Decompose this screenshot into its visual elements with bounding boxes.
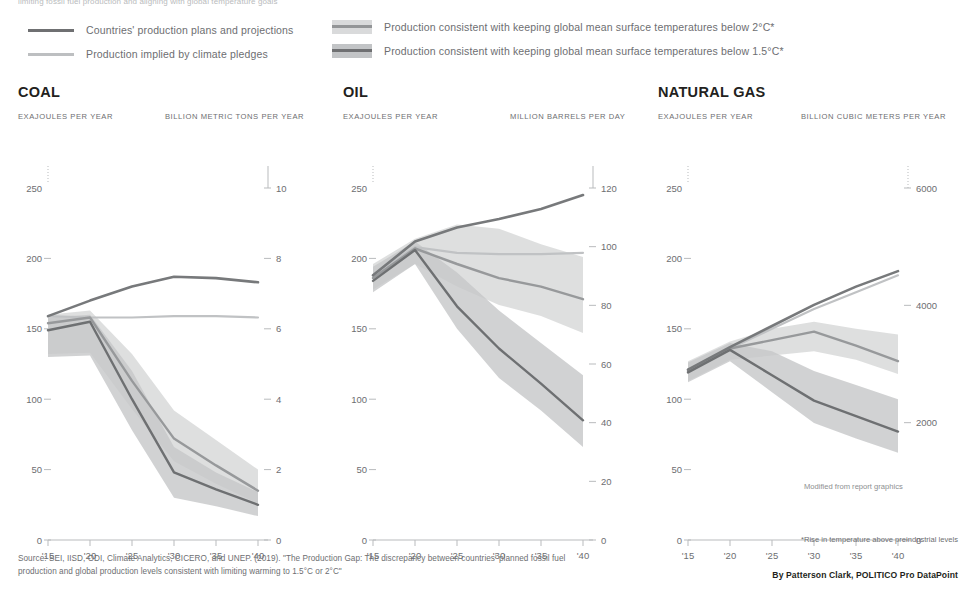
svg-text:4000: 4000 [916, 300, 937, 311]
y-axis-label-gas-left: EXAJOULES PER YEAR [658, 112, 753, 121]
legend-band-swatch-2c [332, 20, 372, 34]
modified-note: Modified from report graphics [804, 482, 903, 491]
legend-item-pledges: Production implied by climate pledges [28, 48, 268, 60]
svg-text:'30: '30 [808, 550, 820, 561]
svg-text:'15: '15 [682, 550, 694, 561]
svg-text:0: 0 [677, 535, 682, 546]
y-axis-label-gas-right: BILLION CUBIC METERS PER YEAR [801, 112, 946, 121]
svg-text:'40: '40 [892, 550, 904, 561]
svg-text:200: 200 [666, 253, 682, 264]
chart-svg-coal: 0501001502002500246810'15'20'25'30'35'40 [0, 130, 325, 550]
svg-text:2000: 2000 [916, 417, 937, 428]
svg-text:2: 2 [276, 464, 281, 475]
svg-text:60: 60 [601, 359, 612, 370]
svg-text:80: 80 [601, 300, 612, 311]
legend-item-2c: Production consistent with keeping globa… [332, 20, 775, 34]
legend-line-swatch-pledges [28, 53, 74, 56]
svg-text:120: 120 [601, 183, 617, 194]
legend-line-swatch-plans [28, 29, 74, 32]
svg-text:6000: 6000 [916, 183, 937, 194]
panel-title-oil: OIL [343, 84, 368, 100]
svg-text:40: 40 [601, 417, 612, 428]
legend-label-2c: Production consistent with keeping globa… [384, 21, 775, 33]
byline: By Patterson Clark, POLITICO Pro DataPoi… [772, 570, 958, 580]
svg-text:100: 100 [351, 394, 367, 405]
source-credit: Source: SEI, IISD, ODI, Climate Analytic… [18, 552, 578, 578]
svg-text:6: 6 [276, 323, 281, 334]
svg-text:0: 0 [37, 535, 42, 546]
panel-title-natural-gas: NATURAL GAS [658, 84, 765, 100]
svg-text:20: 20 [601, 476, 612, 487]
y-axis-label-oil-left: EXAJOULES PER YEAR [343, 112, 438, 121]
y-axis-label-oil-right: MILLION BARRELS PER DAY [510, 112, 625, 121]
y-axis-label-coal-right: BILLION METRIC TONS PER YEAR [165, 112, 304, 121]
legend-band-swatch-15c [332, 44, 372, 58]
panel-oil: OIL EXAJOULES PER YEAR MILLION BARRELS P… [325, 84, 650, 534]
panel-title-coal: COAL [18, 84, 60, 100]
legend-label-15c: Production consistent with keeping globa… [384, 45, 784, 57]
svg-text:100: 100 [666, 394, 682, 405]
infographic-canvas: limiting fossil fuel production and alig… [0, 0, 974, 594]
legend-label-pledges: Production implied by climate pledges [86, 48, 268, 60]
svg-text:4: 4 [276, 394, 281, 405]
svg-text:250: 250 [666, 183, 682, 194]
legend-item-15c: Production consistent with keeping globa… [332, 44, 784, 58]
svg-text:'20: '20 [724, 550, 736, 561]
svg-text:100: 100 [26, 394, 42, 405]
svg-text:200: 200 [351, 253, 367, 264]
svg-text:100: 100 [601, 241, 617, 252]
panel-natural-gas: NATURAL GAS EXAJOULES PER YEAR BILLION C… [650, 84, 974, 534]
svg-text:150: 150 [351, 323, 367, 334]
y-axis-label-coal-left: EXAJOULES PER YEAR [18, 112, 113, 121]
svg-text:250: 250 [26, 183, 42, 194]
svg-text:50: 50 [356, 464, 367, 475]
svg-text:150: 150 [666, 323, 682, 334]
svg-text:50: 50 [671, 464, 682, 475]
svg-text:0: 0 [362, 535, 367, 546]
footnote-temperature: *Rise in temperature above preindustrial… [801, 535, 958, 544]
svg-text:10: 10 [276, 183, 287, 194]
panel-coal: COAL EXAJOULES PER YEAR BILLION METRIC T… [0, 84, 325, 534]
svg-text:8: 8 [276, 253, 281, 264]
svg-text:200: 200 [26, 253, 42, 264]
chart-legend: Countries' production plans and projecti… [0, 20, 974, 66]
svg-text:'40: '40 [577, 550, 589, 561]
svg-text:250: 250 [351, 183, 367, 194]
legend-label-plans: Countries' production plans and projecti… [86, 24, 294, 36]
legend-item-plans: Countries' production plans and projecti… [28, 24, 294, 36]
clipped-headline: limiting fossil fuel production and alig… [18, 0, 718, 9]
chart-svg-oil: 050100150200250020406080100120'15'20'25'… [325, 130, 650, 550]
svg-text:150: 150 [26, 323, 42, 334]
svg-text:0: 0 [276, 535, 281, 546]
svg-text:50: 50 [31, 464, 42, 475]
svg-text:'35: '35 [850, 550, 862, 561]
svg-text:0: 0 [601, 535, 606, 546]
svg-text:'25: '25 [766, 550, 778, 561]
